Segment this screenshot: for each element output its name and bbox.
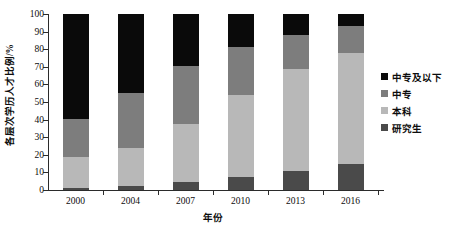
y-axis-tick-mark [43, 190, 48, 191]
bar-segment[interactable] [173, 182, 199, 190]
bar-segment[interactable] [63, 157, 89, 188]
y-axis-tick-mark [43, 67, 48, 68]
stacked-bar-chart: 各层次学历人才比例/% 0102030405060708090100 年份 中专… [0, 0, 456, 234]
bar-column[interactable] [338, 14, 364, 190]
bar-column[interactable] [173, 14, 199, 190]
x-axis-tick-label: 2016 [341, 196, 360, 206]
y-axis-tick-mark [43, 49, 48, 50]
y-axis-tick-label: 100 [30, 9, 44, 19]
legend-label: 中专及以下 [392, 70, 442, 84]
bar-segment[interactable] [283, 171, 309, 190]
x-axis-tick-label: 2010 [231, 196, 250, 206]
x-axis-tick-mark [213, 191, 214, 195]
legend-item[interactable]: 中专 [381, 85, 455, 102]
legend-item[interactable]: 中专及以下 [381, 68, 455, 85]
y-axis-title: 各层次学历人才比例/% [0, 0, 18, 190]
legend-swatch-icon [381, 107, 388, 114]
legend-swatch-icon [381, 73, 388, 80]
bar-segment[interactable] [63, 188, 89, 190]
bar-segment[interactable] [173, 66, 199, 124]
y-axis-tick-mark [43, 84, 48, 85]
bar-segment[interactable] [338, 26, 364, 52]
y-axis-tick-mark [43, 155, 48, 156]
bar-segment[interactable] [118, 186, 144, 190]
bar-segment[interactable] [338, 14, 364, 26]
bar-segment[interactable] [338, 164, 364, 190]
bar-segment[interactable] [173, 14, 199, 66]
legend-label: 中专 [392, 87, 412, 101]
x-axis-tick-label: 2000 [66, 196, 85, 206]
y-axis-tick-mark [43, 14, 48, 15]
x-axis-line [48, 190, 384, 191]
y-axis-tick-mark [43, 102, 48, 103]
x-axis-tick-mark [103, 191, 104, 195]
x-axis-tick-mark [378, 191, 379, 195]
bar-segment[interactable] [118, 148, 144, 187]
bar-segment[interactable] [283, 14, 309, 35]
bar-segment[interactable] [228, 14, 254, 47]
x-axis-title: 年份 [48, 210, 378, 224]
x-axis-tick-mark [268, 191, 269, 195]
legend-swatch-icon [381, 124, 388, 131]
x-axis-tick-label: 2007 [176, 196, 195, 206]
bar-segment[interactable] [283, 69, 309, 170]
bar-segment[interactable] [173, 124, 199, 182]
y-axis-tick-mark [43, 120, 48, 121]
bar-segment[interactable] [228, 177, 254, 190]
bar-segment[interactable] [118, 14, 144, 93]
legend-swatch-icon [381, 90, 388, 97]
bar-segment[interactable] [228, 47, 254, 95]
chart-legend: 中专及以下中专本科研究生 [381, 68, 455, 136]
bar-segment[interactable] [63, 119, 89, 158]
x-axis-tick-mark [158, 191, 159, 195]
y-axis-title-text: 各层次学历人才比例/% [2, 44, 16, 146]
bar-column[interactable] [283, 14, 309, 190]
legend-label: 研究生 [392, 121, 422, 135]
y-axis-tick-mark [43, 32, 48, 33]
bar-segment[interactable] [118, 93, 144, 148]
legend-item[interactable]: 本科 [381, 102, 455, 119]
bar-column[interactable] [63, 14, 89, 190]
bar-column[interactable] [118, 14, 144, 190]
bar-column[interactable] [228, 14, 254, 190]
bar-segment[interactable] [228, 95, 254, 177]
x-axis-tick-mark [323, 191, 324, 195]
y-axis-tick-labels: 0102030405060708090100 [18, 14, 46, 190]
legend-item[interactable]: 研究生 [381, 119, 455, 136]
bar-segment[interactable] [338, 53, 364, 165]
legend-label: 本科 [392, 104, 412, 118]
bar-segment[interactable] [63, 14, 89, 119]
bar-segment[interactable] [283, 35, 309, 69]
x-axis-tick-label: 2004 [121, 196, 140, 206]
y-axis-tick-mark [43, 172, 48, 173]
plot-area [48, 14, 378, 190]
y-axis-tick-mark [43, 137, 48, 138]
x-axis-tick-label: 2013 [286, 196, 305, 206]
